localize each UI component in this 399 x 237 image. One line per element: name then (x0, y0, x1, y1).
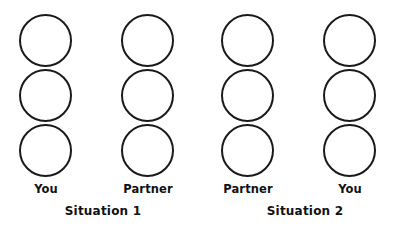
circle-top (221, 14, 274, 67)
circle-middle (323, 69, 376, 122)
circle-column-partner-situation-2: Partner (220, 0, 276, 200)
circle-top (323, 14, 376, 67)
diagram-canvas: You Partner Partner You Situation 1 Situ… (0, 0, 399, 237)
circle-column-you-situation-1: You (18, 0, 74, 200)
circle-middle (121, 69, 174, 122)
circle-bottom (323, 124, 376, 177)
circle-column-partner-situation-1: Partner (120, 0, 176, 200)
situation-1-label: Situation 1 (38, 204, 168, 218)
column-role-label: You (322, 182, 378, 196)
circle-bottom (221, 124, 274, 177)
column-role-label: Partner (120, 182, 176, 196)
circle-top (121, 14, 174, 67)
situation-2-label: Situation 2 (240, 204, 370, 218)
circle-top (19, 14, 72, 67)
circle-bottom (19, 124, 72, 177)
column-role-label: You (18, 182, 74, 196)
circle-column-you-situation-2: You (322, 0, 378, 200)
circle-middle (221, 69, 274, 122)
circle-middle (19, 69, 72, 122)
column-role-label: Partner (220, 182, 276, 196)
circle-bottom (121, 124, 174, 177)
